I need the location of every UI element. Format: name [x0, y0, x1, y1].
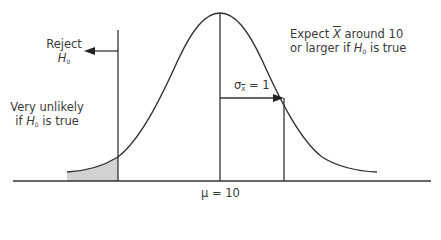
expect-h: H [354, 41, 363, 55]
expect-line2-post: is true [366, 41, 406, 55]
sigma-label: σX = 1 [234, 78, 270, 96]
very-unlikely-label: Very unlikely if H0 is true [6, 100, 88, 132]
expect-line2-pre: or larger if [290, 41, 354, 55]
expect-label: Expect X around 10 or larger if H0 is tr… [290, 27, 406, 59]
very-unlikely-post: is true [39, 114, 79, 128]
expect-post: around 10 [341, 27, 403, 41]
reject-arrow-head-icon [84, 47, 95, 55]
reject-h-sub: 0 [66, 58, 70, 65]
very-unlikely-pre: if [15, 114, 26, 128]
expect-xbar: X [333, 27, 341, 41]
mu-label: μ = 10 [201, 186, 240, 200]
sigma-eq: = 1 [245, 78, 269, 92]
expect-pre: Expect [290, 27, 333, 41]
very-unlikely-h: H [26, 114, 35, 128]
reject-text: Reject [44, 37, 84, 51]
very-unlikely-line1: Very unlikely [6, 100, 88, 114]
reject-label: Reject H0 [44, 37, 84, 69]
